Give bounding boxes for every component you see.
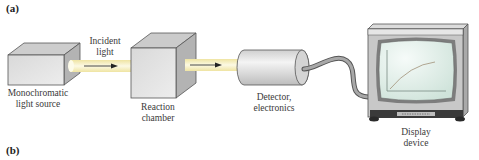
panel-label-b: (b) bbox=[6, 144, 19, 156]
display-device bbox=[368, 24, 468, 122]
display-label-line2: device bbox=[390, 138, 442, 149]
light-source-label-line2: light source bbox=[2, 99, 74, 110]
light-source-label: Monochromatic light source bbox=[2, 88, 74, 110]
reaction-chamber-label-line2: chamber bbox=[130, 113, 186, 124]
cable bbox=[304, 58, 368, 97]
incident-light-label-line1: Incident bbox=[80, 36, 130, 47]
light-source-label-line1: Monochromatic bbox=[2, 88, 74, 99]
panel-label-a: (a) bbox=[6, 2, 19, 14]
incident-light-label-line2: light bbox=[80, 47, 130, 58]
detector-cylinder bbox=[237, 50, 309, 85]
detector-label: Detector, electronics bbox=[240, 92, 308, 114]
incident-light-label: Incident light bbox=[80, 36, 130, 58]
detector-label-line1: Detector, bbox=[240, 92, 308, 103]
display-label-line1: Display bbox=[390, 127, 442, 138]
transmitted-light-beam bbox=[185, 59, 241, 71]
incident-light-beam bbox=[68, 60, 133, 72]
display-label: Display device bbox=[390, 127, 442, 149]
reaction-chamber-label-line1: Reaction bbox=[130, 102, 186, 113]
detector-label-line2: electronics bbox=[240, 103, 308, 114]
reaction-chamber-label: Reaction chamber bbox=[130, 102, 186, 124]
display-screen bbox=[379, 41, 454, 101]
